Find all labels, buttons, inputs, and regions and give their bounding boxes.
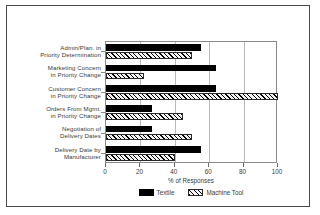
legend-swatch	[188, 189, 203, 196]
category-label: Orders From Mgmt.in Priority Change	[1, 105, 101, 120]
x-axis-tick-label: 20	[124, 168, 154, 175]
bar-chart-figure: Admin/Plan. inPriority DeterminationMark…	[0, 0, 320, 215]
bar-textile	[106, 44, 201, 51]
category-label-line: Priority Determination	[1, 51, 101, 58]
x-axis-tick	[105, 163, 106, 167]
x-axis-tick	[208, 163, 209, 167]
x-axis-tick-label: 60	[193, 168, 223, 175]
category-label-line: Manufacturer	[1, 153, 101, 160]
x-axis-tick-label: 40	[159, 168, 189, 175]
bar-machine-tool	[106, 93, 278, 100]
category-label-line: Orders From Mgmt.	[1, 105, 101, 112]
bar-machine-tool	[106, 52, 192, 59]
bar-textile	[106, 65, 216, 72]
category-label-line: in Priority Change	[1, 92, 101, 99]
category-label-line: Delivery Dates	[1, 132, 101, 139]
bar-group	[106, 42, 276, 62]
bar-group	[106, 123, 276, 143]
bar-textile	[106, 85, 216, 92]
bar-group	[106, 83, 276, 103]
x-axis-tick	[139, 163, 140, 167]
legend-item: Textile	[139, 189, 175, 196]
x-axis-tick-label: 0	[90, 168, 120, 175]
chart-legend: TextileMachine Tool	[105, 189, 277, 196]
legend-label: Textile	[157, 189, 175, 196]
bar-group	[106, 62, 276, 82]
category-label-line: in Priority Change	[1, 71, 101, 78]
category-label-line: Marketing Concern	[1, 64, 101, 71]
category-label: Negotiation ofDelivery Dates	[1, 125, 101, 140]
x-axis-title: % of Responses	[105, 177, 277, 184]
bar-group	[106, 144, 276, 164]
x-axis-tick	[243, 163, 244, 167]
bar-group	[106, 103, 276, 123]
category-label: Admin/Plan. inPriority Determination	[1, 44, 101, 59]
category-label-line: Negotiation of	[1, 125, 101, 132]
legend-label: Machine Tool	[206, 189, 243, 196]
bar-machine-tool	[106, 154, 175, 161]
category-label-line: Admin/Plan. in	[1, 44, 101, 51]
bar-machine-tool	[106, 134, 192, 141]
category-label: Customer Concernin Priority Change	[1, 85, 101, 100]
category-axis-labels: Admin/Plan. inPriority DeterminationMark…	[0, 41, 101, 163]
bar-textile	[106, 126, 152, 133]
legend-item: Machine Tool	[188, 189, 243, 196]
bar-textile	[106, 105, 152, 112]
category-label-line: Delivery Date by	[1, 146, 101, 153]
x-axis-tick	[174, 163, 175, 167]
category-label-line: Customer Concern	[1, 85, 101, 92]
category-label-line: in Priority Change	[1, 112, 101, 119]
x-axis-tick-label: 80	[228, 168, 258, 175]
x-axis-tick	[277, 163, 278, 167]
x-axis-tick-label: 100	[262, 168, 292, 175]
bar-machine-tool	[106, 113, 183, 120]
bar-textile	[106, 146, 201, 153]
bar-machine-tool	[106, 73, 144, 80]
plot-area	[105, 41, 277, 163]
category-label: Marketing Concernin Priority Change	[1, 64, 101, 79]
legend-swatch	[139, 189, 154, 196]
category-label: Delivery Date byManufacturer	[1, 146, 101, 161]
